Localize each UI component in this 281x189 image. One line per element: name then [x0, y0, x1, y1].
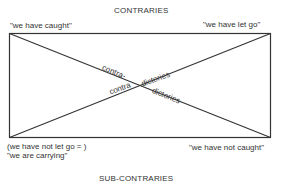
sub-contraries-heading: SUB-CONTRARIES — [99, 174, 173, 183]
bottom-left-corner-label-line1: (we have not let go = ) — [7, 142, 86, 151]
opposition-rectangle-with-diagonals — [0, 0, 281, 189]
bottom-left-corner-label-line2: "we are carrying" — [7, 151, 67, 160]
bottom-right-corner-label: "we have not caught" — [189, 143, 264, 152]
